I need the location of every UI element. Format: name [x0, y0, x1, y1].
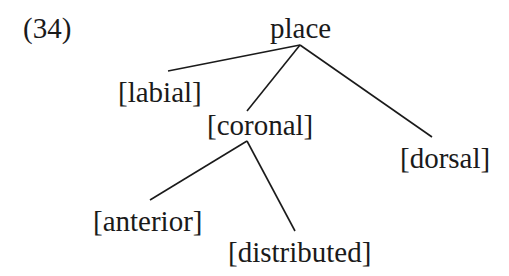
- example-number: (34): [23, 14, 71, 43]
- edge-coronal-anterior: [150, 141, 247, 200]
- edge-place-labial: [168, 45, 300, 71]
- node-anterior: [anterior]: [93, 207, 203, 236]
- node-labial: [labial]: [118, 78, 202, 107]
- node-coronal: [coronal]: [207, 111, 313, 140]
- node-distributed: [distributed]: [228, 238, 371, 267]
- node-dorsal: [dorsal]: [400, 144, 490, 173]
- node-place: place: [270, 14, 331, 43]
- edge-place-coronal: [247, 45, 300, 111]
- edge-place-dorsal: [300, 45, 432, 137]
- edge-coronal-distributed: [247, 141, 295, 231]
